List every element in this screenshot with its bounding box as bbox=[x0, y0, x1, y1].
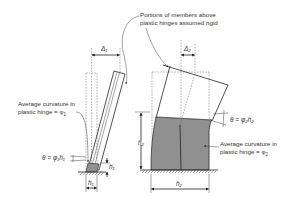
rigid-upper-portion bbox=[156, 65, 228, 125]
h1-vertical-label: h₁ bbox=[109, 163, 115, 170]
h2-horizontal-label: h₂ bbox=[176, 180, 183, 187]
rotation-2-label: θ = φ₂h₂ bbox=[230, 116, 254, 124]
plastic-hinge-diagram: Δ₁ h₁ h₁ θ = φ₁h₁ Average curvature in bbox=[0, 0, 290, 204]
rigid-portions-annotation: Portions of members above plastic hinges… bbox=[122, 11, 218, 84]
curvature-1-annotation: Average curvature in plastic hinge = φ1 bbox=[18, 100, 88, 162]
delta-2-label: Δ₂ bbox=[183, 45, 191, 52]
squat-member: Δ₂ h₂ h₂ θ = φ₂h₂ Average curvature in bbox=[135, 40, 278, 193]
rigid-portions-line2: plastic hinges assumed rigid bbox=[140, 19, 218, 26]
curvature-2-line1: Average curvature in bbox=[220, 140, 278, 147]
curvature-2-annotation: Average curvature in plastic hinge = φ2 bbox=[204, 140, 278, 157]
deflected-member bbox=[88, 71, 125, 170]
ground-hatch-2 bbox=[142, 170, 216, 173]
delta-1-label: Δ₁ bbox=[100, 45, 107, 52]
rigid-portions-line1: Portions of members above bbox=[140, 11, 216, 18]
delta-1-dimension: Δ₁ bbox=[92, 45, 121, 73]
h1-horizontal-dimension: h₁ bbox=[86, 174, 97, 192]
rotation-2-annotation: θ = φ₂h₂ bbox=[213, 110, 254, 127]
ground-hatch-1 bbox=[80, 172, 104, 175]
rotation-1-label: θ = φ₁h₁ bbox=[42, 154, 65, 162]
slender-member: Δ₁ h₁ h₁ θ = φ₁h₁ Average curvature in bbox=[18, 45, 125, 192]
curvature-2-line2: plastic hinge = φ2 bbox=[220, 148, 268, 157]
rotation-1-annotation: θ = φ₁h₁ bbox=[42, 154, 86, 162]
curvature-1-line1: Average curvature in bbox=[18, 100, 76, 107]
h2-vertical-label: h₂ bbox=[138, 139, 145, 146]
plastic-hinge-2 bbox=[151, 117, 212, 170]
plastic-hinge-1 bbox=[86, 163, 99, 172]
h1-horizontal-label: h₁ bbox=[88, 179, 94, 186]
h2-vertical-dimension: h₂ bbox=[135, 112, 150, 169]
h2-horizontal-dimension: h₂ bbox=[151, 174, 209, 193]
curvature-1-line2: plastic hinge = φ1 bbox=[18, 108, 66, 117]
